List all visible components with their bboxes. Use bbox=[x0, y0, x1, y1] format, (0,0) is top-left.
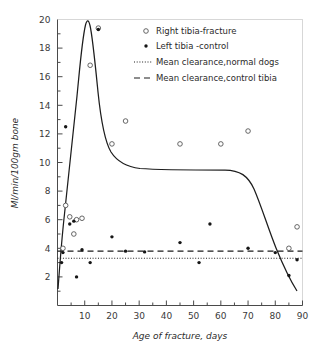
data-point-control bbox=[274, 251, 277, 254]
data-point-fracture bbox=[123, 119, 128, 124]
data-point-fracture bbox=[178, 142, 183, 147]
data-point-control bbox=[88, 261, 91, 264]
x-tick-label: 70 bbox=[242, 311, 254, 321]
data-point-control bbox=[295, 258, 298, 261]
data-point-control bbox=[72, 219, 75, 222]
data-point-fracture bbox=[80, 216, 85, 221]
x-axis-title: Age of fracture, days bbox=[132, 331, 228, 341]
x-tick-label: 80 bbox=[270, 311, 282, 321]
data-point-fracture bbox=[295, 225, 300, 230]
data-point-control bbox=[124, 249, 127, 252]
y-tick-label: 12 bbox=[39, 129, 50, 139]
data-point-control bbox=[208, 222, 211, 225]
y-tick-label: 8 bbox=[45, 186, 51, 196]
data-point-control bbox=[61, 251, 64, 254]
data-point-control bbox=[287, 274, 290, 277]
data-point-fracture bbox=[72, 232, 77, 237]
y-tick-label: 10 bbox=[39, 158, 51, 168]
data-point-fracture bbox=[61, 246, 66, 251]
chart-figure: 2468101214161820 102030405060708090 Age … bbox=[0, 0, 321, 353]
chart-canvas: 2468101214161820 102030405060708090 Age … bbox=[0, 0, 321, 353]
data-point-control bbox=[110, 235, 113, 238]
data-point-control bbox=[60, 261, 63, 264]
y-tick-label: 6 bbox=[45, 215, 51, 225]
data-point-fracture bbox=[110, 142, 115, 147]
y-tick-label: 20 bbox=[39, 15, 51, 25]
x-axis-ticks: 102030405060708090 bbox=[71, 301, 308, 321]
x-tick-label: 90 bbox=[297, 311, 309, 321]
data-point-control bbox=[75, 275, 78, 278]
data-point-control bbox=[64, 125, 67, 128]
data-point-control bbox=[178, 241, 181, 244]
x-tick-label: 60 bbox=[215, 311, 227, 321]
data-point-fracture bbox=[219, 142, 224, 147]
x-tick-label: 40 bbox=[161, 311, 173, 321]
y-tick-label: 14 bbox=[39, 101, 51, 111]
x-tick-label: 50 bbox=[188, 311, 200, 321]
data-point-control bbox=[246, 247, 249, 250]
data-point-control bbox=[197, 261, 200, 264]
legend-label-mean-clearance-normal-dogs: Mean clearance,normal dogs bbox=[156, 57, 280, 67]
data-point-control bbox=[80, 248, 83, 251]
x-tick-label: 30 bbox=[133, 311, 145, 321]
y-axis-title: Ml/min/100gm bone bbox=[10, 117, 20, 208]
data-point-fracture bbox=[63, 203, 68, 208]
data-point-control bbox=[68, 222, 71, 225]
y-tick-label: 2 bbox=[45, 272, 51, 282]
data-point-control bbox=[97, 28, 100, 31]
legend-label-left-tibia-control: Left tibia -control bbox=[156, 41, 229, 51]
x-tick-label: 20 bbox=[106, 311, 118, 321]
legend-marker-filled-circle-icon bbox=[144, 44, 147, 47]
y-tick-label: 18 bbox=[39, 43, 51, 53]
legend: Right tibia-fracture Left tibia -control… bbox=[134, 26, 280, 83]
data-point-control bbox=[143, 250, 146, 253]
y-axis-ticks: 2468101214161820 bbox=[39, 15, 62, 292]
data-point-fracture bbox=[88, 63, 93, 68]
legend-label-mean-clearance-control-tibia: Mean clearance,control tibia bbox=[156, 73, 277, 83]
legend-marker-open-circle-icon bbox=[144, 29, 149, 34]
y-tick-label: 16 bbox=[39, 72, 51, 82]
data-point-fracture bbox=[246, 129, 251, 134]
data-point-fracture bbox=[287, 246, 292, 251]
reference-lines bbox=[58, 251, 303, 258]
y-tick-label: 4 bbox=[45, 244, 51, 254]
data-point-fracture bbox=[67, 215, 72, 220]
x-tick-label: 10 bbox=[79, 311, 91, 321]
legend-label-right-tibia-fracture: Right tibia-fracture bbox=[156, 26, 236, 36]
